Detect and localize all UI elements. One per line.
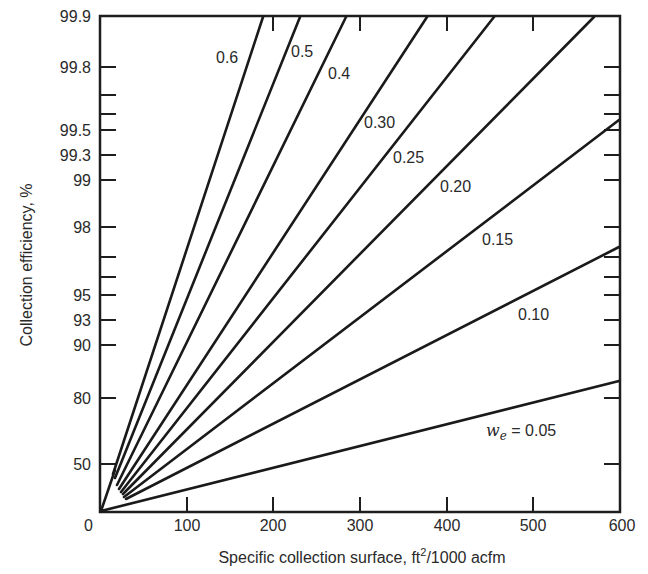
curve-label-0.5: 0.5 (291, 43, 313, 60)
curve-we-0.30 (119, 17, 427, 489)
y-tick-label: 0 (84, 517, 93, 534)
x-tick-label: 100 (174, 517, 201, 534)
y-axis-title: Collection efficiency, % (18, 183, 35, 346)
y-tick-label: 99.9 (60, 8, 91, 25)
y-tick-label: 50 (73, 456, 91, 473)
y-tick-label: 99.3 (60, 147, 91, 164)
curve-label-0.30: 0.30 (364, 114, 395, 131)
curve-we-0.25 (121, 17, 494, 492)
x-tick-label: 400 (434, 517, 461, 534)
x-tick-label: 200 (260, 517, 287, 534)
curve-label-0.4: 0.4 (328, 65, 350, 82)
y-tick-label: 80 (73, 390, 91, 407)
y-tick-label: 99 (73, 172, 91, 189)
x-tick-label: 300 (347, 517, 374, 534)
y-tick-label: 98 (73, 219, 91, 236)
curve-we-0.10 (126, 247, 619, 499)
curve-label-0.05: we = 0.05 (486, 421, 556, 443)
y-tick-label: 99.5 (60, 122, 91, 139)
x-axis-ticks-bottom (187, 497, 533, 512)
y-tick-labels: 99.9 99.8 99.5 99.3 99 98 95 93 90 80 50… (60, 8, 93, 534)
curve-label-0.6: 0.6 (216, 49, 238, 66)
x-tick-labels: 100 200 300 400 500 600 (174, 517, 636, 534)
y-tick-label: 99.8 (60, 59, 91, 76)
collection-efficiency-chart: 99.9 99.8 99.5 99.3 99 98 95 93 90 80 50… (0, 0, 648, 574)
curve-label-0.25: 0.25 (393, 149, 424, 166)
curve-label-0.15: 0.15 (482, 231, 513, 248)
x-axis-title: Specific collection surface, ft2/1000 ac… (218, 546, 505, 566)
y-axis-ticks-left (100, 67, 116, 464)
y-tick-label: 90 (73, 337, 91, 354)
y-tick-label: 93 (73, 312, 91, 329)
y-tick-label: 95 (73, 287, 91, 304)
x-tick-label: 500 (520, 517, 547, 534)
curve-labels: 0.6 0.5 0.4 0.30 0.25 0.20 0.15 0.10 we … (216, 43, 556, 443)
x-tick-label: 600 (609, 517, 636, 534)
curve-label-0.20: 0.20 (440, 178, 471, 195)
curve-label-0.10: 0.10 (518, 306, 549, 323)
curve-we-0.05 (101, 381, 619, 511)
curve-origin-connector (101, 470, 115, 511)
